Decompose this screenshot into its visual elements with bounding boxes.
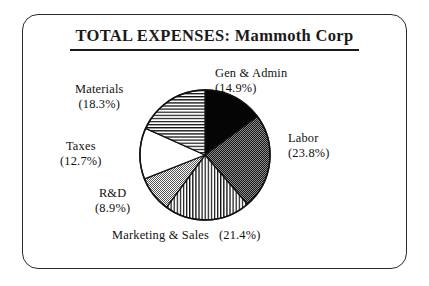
slice-label-name: Taxes xyxy=(60,139,102,154)
slice-label-name: Gen & Admin xyxy=(215,66,287,81)
slice-label-percent: (18.3%) xyxy=(75,97,124,112)
slice-label-percent: (12.7%) xyxy=(60,154,102,169)
slice-label-labor: Labor (23.8%) xyxy=(288,131,330,160)
slice-label-percent: (14.9%) xyxy=(215,81,287,96)
slice-label-name: Labor xyxy=(288,131,330,146)
slice-label-percent: (8.9%) xyxy=(95,201,130,216)
slice-label-name: Marketing & Sales xyxy=(112,228,209,242)
slice-label-marketing-and-sales: Marketing & Sales (21.4%) xyxy=(112,228,261,243)
slice-label-name: R&D xyxy=(95,186,130,201)
slice-label-percent: (21.4%) xyxy=(219,228,261,242)
slice-label-rnd: R&D (8.9%) xyxy=(95,186,130,215)
slice-label-materials: Materials (18.3%) xyxy=(75,82,124,111)
slice-label-percent: (23.8%) xyxy=(288,146,330,161)
slice-label-taxes: Taxes (12.7%) xyxy=(60,139,102,168)
slice-label-gen-admin: Gen & Admin (14.9%) xyxy=(215,66,287,95)
slice-label-name: Materials xyxy=(75,82,124,97)
